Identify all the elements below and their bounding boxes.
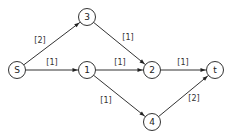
arrowhead-icon [138,68,143,72]
node-1: 1 [79,62,96,79]
edge-capacity-label: [1] [122,33,133,42]
node-label: 2 [149,65,155,75]
node-label: 1 [84,65,90,75]
edge-1-4: [1] [94,75,146,116]
node-2: 2 [144,62,161,79]
edge-capacity-label: [2] [34,36,45,45]
node-label: 4 [149,117,155,127]
edge-capacity-label: [2] [188,94,199,103]
node-label: S [14,65,20,75]
edge-capacity-label: [1] [177,58,188,67]
edge-4-t: [2] [159,75,209,116]
node-label: 3 [84,12,90,22]
edge-capacity-label: [1] [114,58,125,67]
edge-capacity-label: [1] [100,96,111,105]
arrowhead-icon [73,68,78,72]
edge-line [159,75,209,116]
node-t: t [207,62,224,79]
edge-2-t: [1] [161,58,207,73]
node-S: S [9,62,26,79]
edge-S-1: [1] [26,58,79,73]
node-3: 3 [79,9,96,26]
edges-layer: [2][1][1][1][1][1][2] [24,22,209,117]
node-label: t [213,65,217,75]
edge-1-2: [1] [96,58,144,73]
arrowhead-icon [201,68,206,72]
node-4: 4 [144,114,161,131]
edge-capacity-label: [1] [46,58,57,67]
network-diagram: [2][1][1][1][1][1][2] S312t4 [0,0,232,137]
